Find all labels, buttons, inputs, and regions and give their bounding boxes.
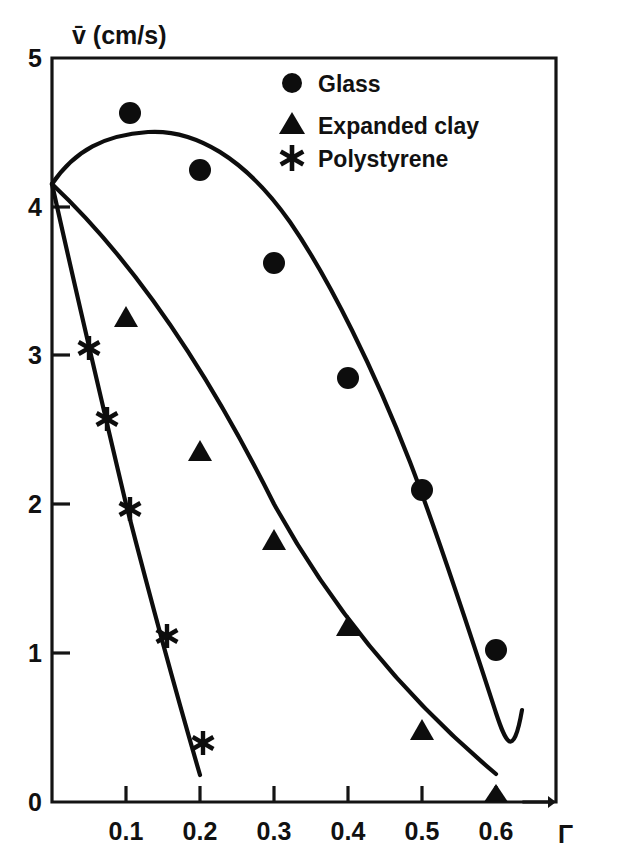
clay-point-5	[410, 719, 434, 740]
clay-point-6	[484, 784, 508, 802]
legend-label-polystyrene: Polystyrene	[318, 146, 448, 172]
glass-fit-curve	[52, 132, 522, 742]
y-tick-label-1: 1	[28, 639, 42, 667]
glass-point-2	[189, 159, 211, 181]
polystyrene-markers	[79, 336, 214, 755]
glass-point-3	[263, 252, 285, 274]
series-expanded-clay	[52, 184, 508, 802]
chart-legend: Glass Expanded clay Polystyrene	[279, 71, 479, 172]
x-tick-label-0.4: 0.4	[331, 817, 366, 845]
x-tick-label-0.6: 0.6	[479, 817, 514, 845]
legend-circle-icon	[282, 73, 302, 93]
y-tick-label-4: 4	[28, 193, 42, 221]
legend-asterisk-icon	[281, 145, 304, 171]
poly-point-2	[97, 407, 118, 431]
x-tick-label-0.2: 0.2	[183, 817, 218, 845]
legend-entry-glass: Glass	[282, 71, 381, 97]
y-axis-tick-labels: 5 4 3 2 1 0	[28, 44, 42, 816]
x-axis-arrow-icon	[524, 796, 556, 808]
x-axis-label: Γ	[558, 820, 573, 848]
legend-label-expanded-clay: Expanded clay	[318, 113, 479, 139]
x-tick-label-0.3: 0.3	[257, 817, 292, 845]
glass-point-6	[485, 639, 507, 661]
y-tick-label-5: 5	[28, 44, 42, 72]
glass-point-5	[411, 479, 433, 501]
velocity-vs-gamma-scatter-chart: 5 4 3 2 1 0 0.1 0.2 0.3 0.4 0.5 0.6	[0, 0, 617, 855]
glass-markers	[119, 102, 507, 661]
legend-label-glass: Glass	[318, 71, 381, 97]
legend-entry-polystyrene: Polystyrene	[281, 145, 449, 172]
y-tick-label-0: 0	[28, 788, 42, 816]
y-tick-label-3: 3	[28, 341, 42, 369]
y-axis-label: v̄ (cm/s)	[72, 21, 166, 49]
plot-frame	[52, 58, 556, 802]
legend-entry-expanded-clay: Expanded clay	[279, 112, 479, 139]
poly-point-5	[193, 731, 214, 755]
axis-box	[52, 58, 556, 802]
y-axis-ticks	[52, 207, 70, 653]
expanded-clay-markers	[114, 306, 508, 802]
poly-point-3	[120, 497, 141, 521]
clay-point-2	[188, 440, 212, 461]
series-glass	[52, 102, 522, 742]
poly-point-1	[79, 336, 100, 360]
clay-point-3	[262, 529, 286, 550]
polystyrene-fit-curve	[52, 184, 200, 775]
y-tick-label-2: 2	[28, 490, 42, 518]
glass-point-1	[119, 102, 141, 124]
legend-triangle-icon	[279, 112, 305, 134]
clay-point-1	[114, 306, 138, 327]
glass-point-4	[337, 367, 359, 389]
x-tick-label-0.1: 0.1	[109, 817, 144, 845]
x-axis-ticks	[126, 786, 496, 802]
x-axis-tick-labels: 0.1 0.2 0.3 0.4 0.5 0.6	[109, 817, 514, 845]
clay-point-4	[336, 615, 360, 636]
x-tick-label-0.5: 0.5	[405, 817, 440, 845]
